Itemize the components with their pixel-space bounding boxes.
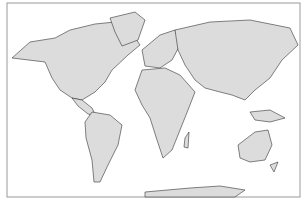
world-map [0,0,307,206]
